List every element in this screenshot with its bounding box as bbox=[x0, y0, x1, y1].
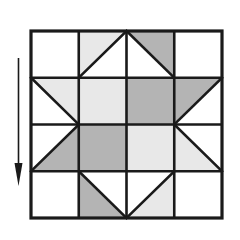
figure-canvas bbox=[0, 0, 240, 240]
arrow-head-icon bbox=[15, 163, 23, 186]
direction-arrow-down bbox=[0, 0, 240, 240]
